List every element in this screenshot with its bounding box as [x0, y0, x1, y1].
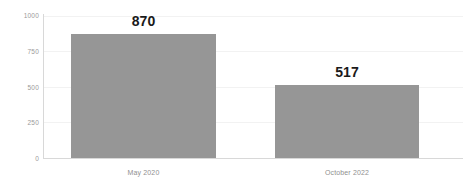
bar-may-2020[interactable]: [71, 34, 216, 158]
bar-value-label-may-2020: 870: [71, 14, 216, 29]
x-axis-line: [43, 158, 463, 159]
y-axis-tick-labels: 1000 750 500 250 0: [0, 0, 39, 190]
y-tick-label: 500: [0, 84, 39, 91]
x-category-label-may-2020: May 2020: [71, 168, 216, 177]
bar-chart: 1000 750 500 250 0 870 517 May 2020 Octo…: [0, 0, 466, 190]
y-axis-line: [43, 14, 44, 159]
x-category-label-october-2022: October 2022: [275, 168, 419, 177]
y-tick-label: 0: [0, 155, 39, 162]
bar-value-label-october-2022: 517: [275, 65, 419, 80]
y-tick-label: 1000: [0, 12, 39, 19]
y-tick-label: 750: [0, 48, 39, 55]
bar-october-2022[interactable]: [275, 85, 419, 158]
y-tick-label: 250: [0, 119, 39, 126]
